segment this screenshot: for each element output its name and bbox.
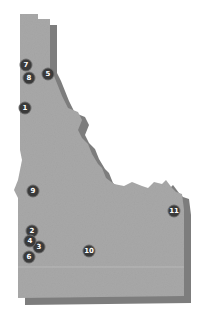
map-marker-11[interactable]: 11: [169, 206, 180, 217]
map-marker-1[interactable]: 1: [20, 103, 31, 114]
idaho-map: [0, 0, 203, 318]
map-marker-5[interactable]: 5: [43, 69, 54, 80]
map-marker-9[interactable]: 9: [28, 186, 39, 197]
map-marker-6[interactable]: 6: [24, 252, 35, 263]
map-marker-7[interactable]: 7: [21, 60, 32, 71]
map-marker-4[interactable]: 4: [25, 236, 36, 247]
map-marker-10[interactable]: 10: [84, 246, 95, 257]
map-marker-8[interactable]: 8: [24, 73, 35, 84]
state-outline: [14, 14, 184, 298]
map-marker-3[interactable]: 3: [34, 242, 45, 253]
